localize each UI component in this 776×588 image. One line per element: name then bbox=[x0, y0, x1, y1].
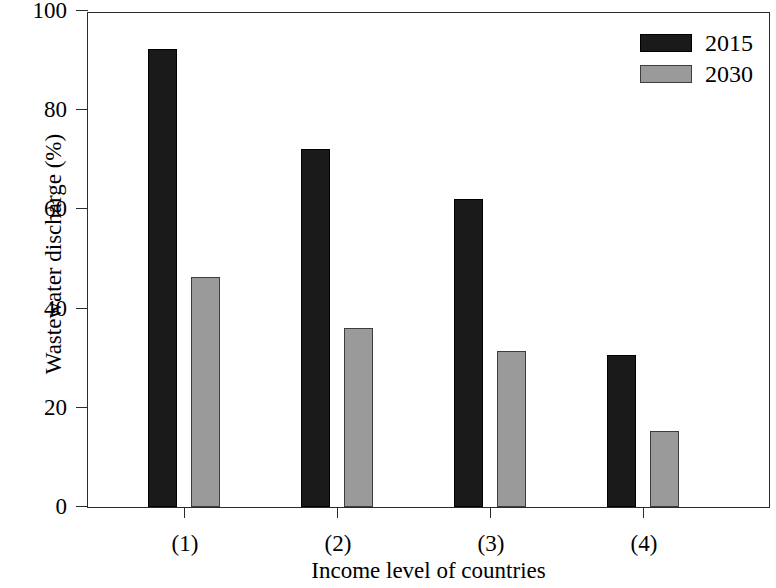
bar-2030-4 bbox=[650, 431, 679, 507]
chart-legend: 20152030 bbox=[640, 31, 753, 86]
bar-2015-1 bbox=[148, 49, 177, 507]
y-axis-tick: 60 bbox=[76, 208, 88, 209]
x-axis-tick-label: (3) bbox=[478, 518, 505, 557]
bar-2030-1 bbox=[191, 277, 220, 507]
y-axis-tick: 0 bbox=[76, 506, 88, 507]
y-axis-tick-label: 80 bbox=[44, 97, 76, 123]
x-axis-tick-label: (2) bbox=[325, 518, 352, 557]
bar-2015-2 bbox=[301, 149, 330, 507]
plot-area: 020406080100 (1)(2)(3)(4) 20152030 bbox=[87, 12, 770, 508]
bar-2030-2 bbox=[344, 328, 373, 507]
x-axis-tick: (3) bbox=[490, 507, 491, 518]
legend-label-2030: 2030 bbox=[705, 62, 753, 86]
bar-chart-figure: Wastewater discharge (%) 020406080100 (1… bbox=[0, 0, 776, 588]
x-axis-tick: (2) bbox=[337, 507, 338, 518]
bar-2015-4 bbox=[607, 355, 636, 507]
y-axis-tick-label: 20 bbox=[44, 395, 76, 421]
bar-2015-3 bbox=[454, 199, 483, 507]
y-axis-tick: 100 bbox=[76, 10, 88, 11]
x-axis-tick: (1) bbox=[184, 507, 185, 518]
legend-item-2015: 2015 bbox=[640, 31, 753, 55]
legend-swatch-2015 bbox=[640, 34, 692, 52]
x-axis-tick: (4) bbox=[643, 507, 644, 518]
y-axis-tick: 80 bbox=[76, 109, 88, 110]
y-axis-tick-label: 40 bbox=[44, 296, 76, 322]
legend-swatch-2030 bbox=[640, 65, 692, 83]
y-axis-tick: 20 bbox=[76, 407, 88, 408]
legend-label-2015: 2015 bbox=[705, 31, 753, 55]
y-axis-tick-label: 0 bbox=[56, 494, 77, 520]
x-axis-tick-label: (4) bbox=[631, 518, 658, 557]
y-axis-tick-label: 100 bbox=[33, 0, 77, 24]
bar-2030-3 bbox=[497, 351, 526, 507]
y-axis-tick-label: 60 bbox=[44, 196, 76, 222]
x-axis-title: Income level of countries bbox=[87, 558, 770, 584]
y-axis-tick: 40 bbox=[76, 308, 88, 309]
x-axis-tick-label: (1) bbox=[172, 518, 199, 557]
y-axis-title: Wastewater discharge (%) bbox=[36, 0, 72, 508]
legend-item-2030: 2030 bbox=[640, 62, 753, 86]
